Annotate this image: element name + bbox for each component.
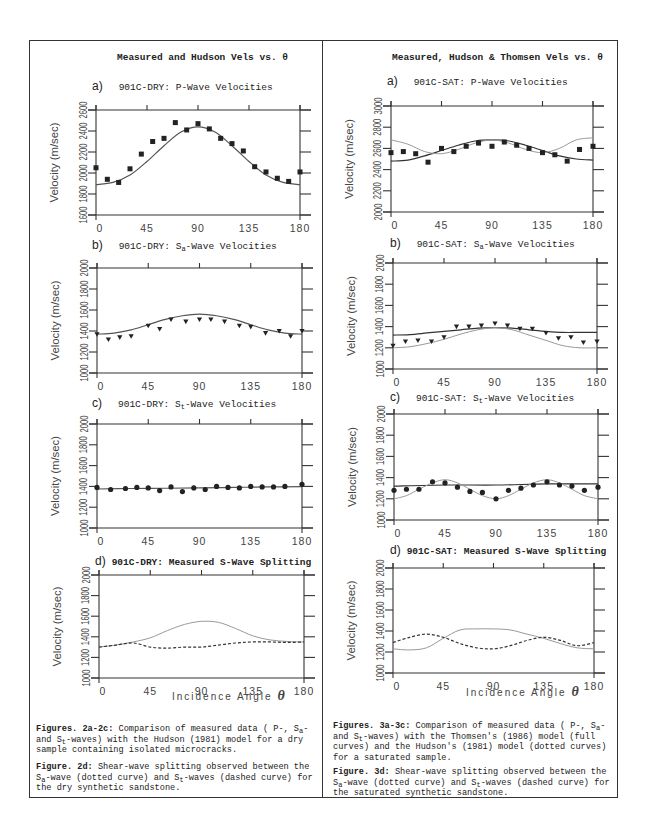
y-tick-label: 1800 [375,275,386,292]
x-axis-label-text: Incidence Angle [172,691,277,702]
curve-dotted [393,629,594,650]
data-point-triangle [403,339,408,344]
data-point-square [286,179,291,184]
data-point-circle [518,486,523,491]
y-tick-label: 2000 [376,405,387,422]
data-point-triangle [237,324,242,329]
data-point-circle [123,486,128,491]
data-point-square [401,149,406,154]
data-point-triangle [492,321,497,326]
curve-dashed [99,642,304,648]
data-point-square [298,169,303,174]
curve-solid [393,328,597,335]
data-point-square [527,146,532,151]
x-tick-label: 0 [98,535,105,547]
caption-text: -waves) with the Hudson (1981) model for… [36,735,303,756]
y-tick-label: 1800 [79,436,90,453]
x-tick-label: 90 [489,527,503,539]
x-axis-label-right: Incidence Angle θ [466,684,579,700]
theta-symbol: θ [571,684,578,699]
y-tick-label: 1400 [81,628,92,645]
data-point-square [230,141,235,146]
data-point-circle [299,482,304,487]
data-point-circle [557,482,562,487]
y-tick-label: 1400 [375,622,386,639]
y-tick-label: 1000 [79,364,90,381]
caption-text: Comparison of measured data ( P-, [410,721,591,731]
data-point-square [162,136,167,141]
caption-heading: Figures. 2a-2c: [36,724,113,734]
data-point-triangle [168,317,173,322]
data-point-circle [569,483,574,488]
y-tick-label: 3000 [373,97,384,114]
data-point-circle [146,485,151,490]
x-tick-label: 90 [191,222,205,234]
y-tick-label: 1600 [376,448,387,465]
y-tick-label: 1200 [376,490,387,507]
data-point-square [565,159,570,164]
data-point-square [196,121,201,126]
data-point-square [439,146,444,151]
y-tick-label: 1800 [81,587,92,604]
caption-heading: Figures. 3a-3c: [333,721,410,731]
y-tick-label: 2400 [373,161,384,178]
data-point-square [207,126,212,131]
y-tick-label: 1000 [81,669,92,686]
y-tick-label: 1800 [375,580,386,597]
y-tick-label: 2400 [78,122,89,139]
data-point-triangle [157,327,162,332]
y-tick-label: 1400 [375,318,386,335]
data-point-circle [544,479,549,484]
data-point-circle [191,485,196,490]
data-point-triangle [556,336,561,341]
x-tick-label: 0 [394,680,401,692]
y-tick-label: 2600 [78,101,89,118]
x-tick-label: 45 [435,219,449,231]
data-point-circle [455,485,460,490]
x-tick-label: 0 [97,222,104,234]
data-point-square [540,150,545,155]
x-tick-label: 90 [193,380,207,392]
data-point-circle [260,484,265,489]
data-point-square [490,144,495,149]
chart-R-b: 10001200140016001800200004590135180Veloc… [346,254,608,388]
caption-figure-2d: Figure. 2d: Shear-wave splitting observe… [36,762,322,794]
caption-heading: Figure. 3d: [333,767,390,777]
data-point-triangle [129,334,134,339]
data-point-triangle [568,335,573,340]
data-point-triangle [208,317,213,322]
chart-L-a: 16001800200022002400260004590135180Veloc… [49,101,311,234]
y-axis-label: Velocity (m/sec) [50,436,61,516]
x-tick-label: 180 [294,685,315,697]
y-tick-label: 2000 [81,566,92,583]
x-tick-label: 180 [292,380,313,392]
y-tick-label: 2000 [79,259,90,276]
x-tick-label: 45 [141,535,155,547]
x-tick-label: 45 [143,685,157,697]
data-point-square [264,169,269,174]
data-point-square [139,152,144,157]
curve-solid [394,484,598,486]
y-tick-label: 1400 [79,322,90,339]
caption-text: -wave (dotted curve) and [45,773,174,783]
x-tick-label: 180 [290,222,311,234]
y-tick-label: 2000 [78,164,89,181]
y-tick-label: 2600 [373,140,384,157]
x-tick-label: 135 [240,535,261,547]
y-tick-label: 1600 [79,457,90,474]
data-point-circle [442,480,447,485]
x-tick-label: 90 [488,376,502,388]
x-tick-label: 135 [537,527,558,539]
caption-text: Comparison of measured data ( P-, [113,724,294,734]
x-axis-label-left: Incidence Angle θ [172,688,285,704]
data-point-circle [271,484,276,489]
y-tick-label: 1400 [376,469,387,486]
x-tick-label: 45 [141,380,155,392]
caption-text: Shear-wave splitting observed between th… [93,762,310,772]
charts-canvas: 16001800200022002400260004590135180Veloc… [0,0,648,825]
data-point-square [389,150,394,155]
data-point-circle [506,488,511,493]
x-tick-label: 180 [584,680,605,692]
chart-L-c: 10001200140016001800200004590135180Veloc… [50,415,313,547]
theta-symbol: θ [277,688,284,703]
